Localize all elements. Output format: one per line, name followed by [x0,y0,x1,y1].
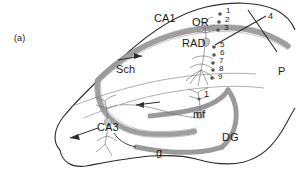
recording-site-dot-6 [212,53,216,57]
recording-site-dot-2 [217,20,221,24]
mossy-fiber-site-label: 1 [204,90,209,99]
hippocampus-diagram-svg [0,0,298,180]
alveus-output-arrow [70,128,98,140]
label-or: OR [192,17,209,28]
label-sch: Sch [116,64,135,75]
label-mf: mf [193,109,205,120]
site-label-1: 1 [226,7,231,15]
slice-outline-right-lower-path [196,108,295,164]
recording-site-dot-1 [218,12,222,16]
recording-site-dot-3 [216,28,220,32]
figure-panel: (a) CA1 OR RAD Sch CA3 mf DG g P 1 2 3 5… [0,0,298,180]
panel-label: (a) [14,34,25,43]
recording-site-dot-5 [212,45,216,49]
site-label-4: 4 [268,12,273,21]
dentate-outer-contour [114,133,136,147]
site-label-3: 3 [224,24,229,32]
dentate-granule-layer-lower-blade [136,147,222,152]
mossy-fiber-recording-dot [197,97,200,100]
label-dg: DG [222,132,239,143]
recording-site-dot-8 [211,68,215,72]
label-ca3: CA3 [97,122,119,133]
recording-site-dot-9 [210,76,214,80]
site-label-9: 9 [218,73,223,81]
recording-site-dot-7 [211,61,215,65]
label-rad: RAD [182,38,206,49]
label-ca1: CA1 [154,13,176,24]
label-g: g [156,147,162,158]
label-p: P [278,66,285,77]
